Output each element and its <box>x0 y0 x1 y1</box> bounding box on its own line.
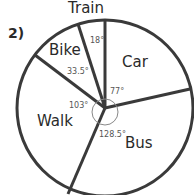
label-train: Train <box>68 1 104 16</box>
angle-walk: 103° <box>69 102 88 110</box>
pie-chart <box>0 0 194 195</box>
angle-train: 18° <box>90 37 104 45</box>
question-number: 2) <box>8 26 24 40</box>
label-bus: Bus <box>125 136 153 151</box>
label-car: Car <box>122 55 148 70</box>
angle-car: 77° <box>110 88 124 96</box>
angle-bus: 128.5° <box>99 131 126 139</box>
angle-bike: 33.5° <box>67 68 89 76</box>
label-bike: Bike <box>49 43 81 58</box>
label-walk: Walk <box>37 114 73 129</box>
